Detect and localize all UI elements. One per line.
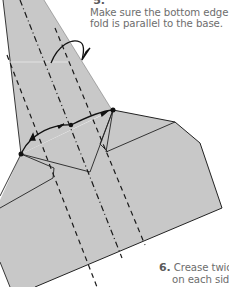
step-5-line-2: Make sure the bottom edge o [90,7,229,19]
step-6-text-1: Crease twice as i [174,262,229,273]
step-5-line-3: fold is parallel to the base. [90,18,229,30]
step-6-line-1: 6. Crease twice as i [159,262,229,274]
paper-body [0,0,222,287]
step-5-instruction: 5. Make sure the bottom edge o fold is p… [90,0,229,30]
step-5-number: 5. [93,0,105,7]
step-6-number: 6. [159,261,171,274]
origami-diagram [0,0,229,287]
step-6-line-2: on each side of t [159,274,229,286]
step-6-instruction: 6. Crease twice as i on each side of t [159,262,229,285]
